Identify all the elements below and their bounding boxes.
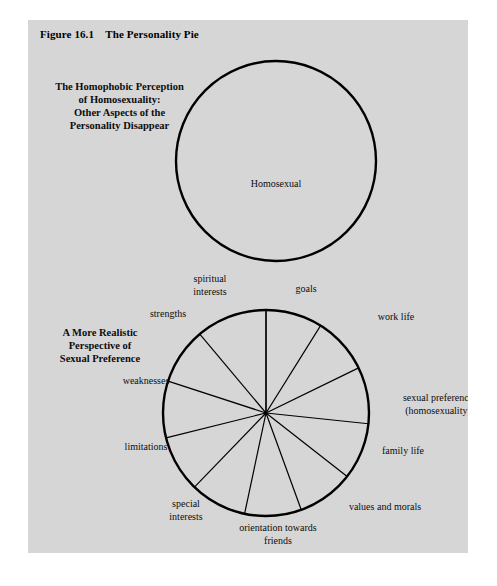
pie-spoke	[166, 413, 266, 438]
pie-sector-label: friends	[264, 535, 292, 546]
homosexual-circle	[176, 61, 376, 261]
pie-sector-label: interests	[169, 511, 202, 522]
homosexual-circle-label: Homosexual	[251, 178, 302, 189]
personality-pie-group: spiritualinterestsgoalsstrengthswork lif…	[123, 273, 468, 546]
pie-spoke	[266, 413, 368, 424]
pie-sector-label: work life	[378, 311, 415, 322]
pie-spoke	[168, 381, 266, 413]
homosexual-circle-group: Homosexual	[176, 61, 376, 261]
pie-sector-label: strengths	[150, 308, 186, 319]
pie-sector-label: orientation towards	[239, 522, 317, 533]
pie-sector-label: goals	[295, 283, 316, 294]
pie-sector-label: sexual preference	[403, 392, 468, 403]
pie-spoke	[194, 413, 266, 487]
pie-sector-label: limitations	[125, 441, 168, 452]
personality-pie-diagram: Homosexual spiritualinterestsgoalsstreng…	[28, 20, 468, 553]
pie-sector-label: family life	[382, 445, 424, 456]
pie-sector-label: special	[172, 498, 200, 509]
pie-spoke	[200, 334, 266, 413]
pie-spoke	[245, 413, 266, 514]
pie-sector-label: interests	[193, 286, 226, 297]
pie-sector-label: (homosexuality)	[405, 405, 468, 417]
pie-sector-label: weaknesses	[123, 375, 170, 386]
pie-sector-label: values and morals	[349, 501, 421, 512]
pie-sector-label: spiritual	[194, 273, 227, 284]
figure-panel: Figure 16.1 The Personality Pie The Homo…	[28, 20, 468, 553]
